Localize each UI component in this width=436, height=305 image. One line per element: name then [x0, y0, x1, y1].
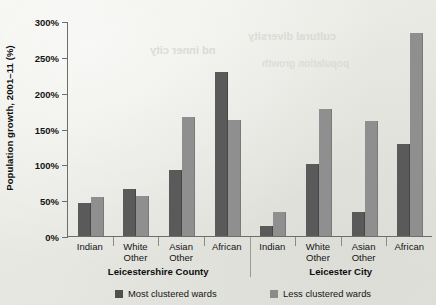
legend-swatch — [270, 290, 278, 298]
bar — [273, 212, 286, 236]
grouped-bar-chart: Population growth, 2001–11 (%) 0%50%100%… — [0, 0, 436, 305]
x-axis-tick-separator — [204, 237, 205, 246]
x-axis-tick-separator — [386, 237, 387, 246]
bar-category-group — [387, 22, 433, 236]
bar — [78, 203, 91, 236]
y-tick-label: 300% — [35, 17, 59, 28]
y-tick-label: 50% — [40, 196, 59, 207]
x-tick-label-line: Other — [352, 252, 376, 263]
bar — [260, 226, 273, 236]
legend-label: Most clustered wards — [128, 288, 217, 299]
bar-category-group — [205, 22, 251, 236]
y-tick — [62, 237, 68, 238]
bar-category-group — [114, 22, 160, 236]
bar-category-group — [251, 22, 297, 236]
bar-category-group — [342, 22, 388, 236]
y-tick-label: 200% — [35, 88, 59, 99]
bar — [123, 189, 136, 236]
x-tick-label-line: Asian — [352, 241, 376, 252]
bar — [365, 121, 378, 236]
x-tick-label-line: African — [394, 241, 424, 252]
group-label: Leicestershire County — [68, 266, 248, 277]
y-tick-label: 150% — [35, 124, 59, 135]
x-tick-label-line: Other — [169, 252, 193, 263]
x-tick-label-line: Indian — [77, 241, 103, 252]
bar — [306, 164, 319, 236]
chart-legend: Most clustered wardsLess clustered wards — [0, 288, 436, 302]
bar-category-group — [296, 22, 342, 236]
x-axis-tick-separator — [341, 237, 342, 246]
x-tick-label-line: African — [212, 241, 242, 252]
bar — [397, 144, 410, 236]
y-tick-label: 0% — [45, 232, 59, 243]
bar — [136, 196, 149, 236]
y-axis-title: Population growth, 2001–11 (%) — [4, 45, 15, 191]
bar — [319, 109, 332, 236]
x-tick-label-line: Other — [306, 252, 330, 263]
x-axis-tick-separator — [295, 237, 296, 246]
bar-category-group — [159, 22, 205, 236]
x-axis-tick-separator — [158, 237, 159, 246]
bar — [410, 33, 423, 236]
bar — [91, 197, 104, 236]
bar — [228, 120, 241, 236]
legend-label: Less clustered wards — [283, 288, 371, 299]
y-tick-label: 250% — [35, 52, 59, 63]
bar — [169, 170, 182, 236]
bar — [352, 212, 365, 236]
y-tick-label: 100% — [35, 160, 59, 171]
group-label: Leicester City — [251, 266, 431, 277]
x-tick-label-line: Other — [124, 252, 148, 263]
bar-category-group — [68, 22, 114, 236]
x-tick-label-line: White — [123, 241, 147, 252]
x-tick-label-line: Indian — [259, 241, 285, 252]
bar — [182, 117, 195, 236]
x-axis-tick-separator — [113, 237, 114, 246]
legend-swatch — [115, 290, 123, 298]
x-tick-label: African — [379, 241, 436, 252]
legend-item[interactable]: Less clustered wards — [270, 288, 371, 299]
bar — [215, 72, 228, 236]
x-tick-label-line: White — [306, 241, 330, 252]
x-tick-label-line: Asian — [169, 241, 193, 252]
plot-area: 0%50%100%150%200%250%300% — [67, 22, 432, 237]
legend-item[interactable]: Most clustered wards — [115, 288, 217, 299]
